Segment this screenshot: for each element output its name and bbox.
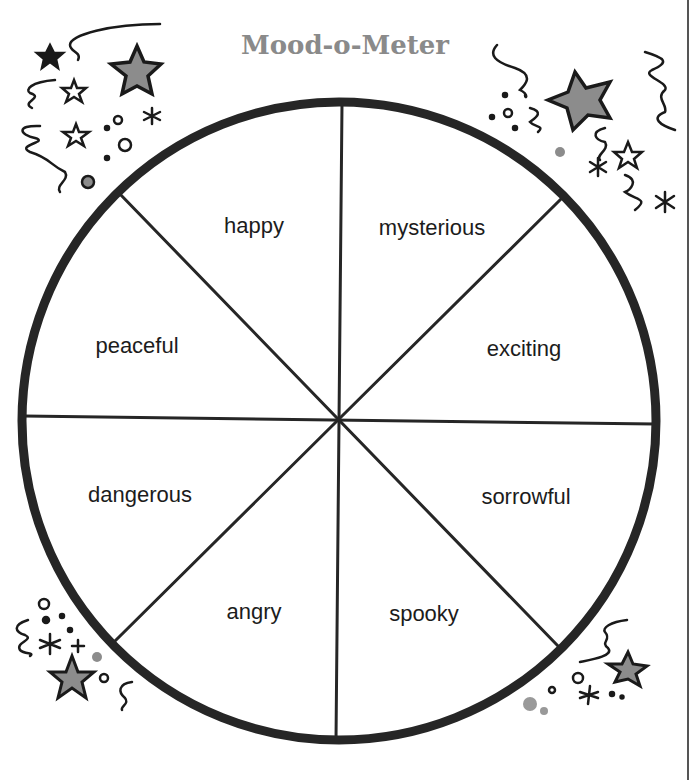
segment-label-mysterious: mysterious [379, 215, 485, 241]
dot-icon [100, 674, 108, 682]
dot-icon [43, 617, 49, 623]
dot-icon [68, 628, 72, 632]
squiggle-icon [23, 126, 67, 192]
dot-icon [555, 147, 565, 157]
dot-icon [39, 599, 49, 609]
squiggle-icon [28, 80, 55, 108]
dot-icon [114, 116, 122, 124]
squiggle-icon [493, 45, 527, 97]
dot-icon [621, 696, 624, 699]
star-icon [111, 46, 161, 94]
decoration-bottom-left [17, 599, 132, 710]
star-icon [548, 72, 610, 130]
dot-icon [82, 176, 94, 188]
star-icon [62, 80, 86, 102]
segment-label-exciting: exciting [487, 336, 562, 362]
squiggle-icon [625, 175, 641, 210]
star-icon [614, 142, 642, 168]
segment-label-angry: angry [226, 599, 281, 625]
asterisk-icon [580, 686, 598, 704]
asterisk-icon [40, 634, 60, 654]
dot-icon [573, 673, 583, 683]
squiggle-icon [120, 682, 132, 710]
segment-label-peaceful: peaceful [95, 333, 178, 359]
squiggle-icon [70, 24, 160, 60]
dot-icon [503, 93, 507, 97]
star-icon [63, 124, 89, 146]
dot-icon [513, 126, 517, 130]
dot-icon [540, 707, 548, 715]
squiggle-icon [596, 128, 607, 160]
segment-label-dangerous: dangerous [88, 482, 192, 508]
dot-icon [119, 139, 131, 151]
dot-icon [523, 697, 537, 711]
segment-label-happy: happy [224, 213, 284, 239]
asterisk-icon [656, 192, 674, 212]
dot-icon [105, 126, 109, 130]
mood-wheel [0, 0, 690, 780]
star-icon [50, 656, 94, 698]
page-edge-line [687, 0, 689, 780]
dot-icon [105, 156, 109, 160]
dot-icon [92, 652, 102, 662]
asterisk-icon [72, 640, 84, 652]
dot-icon [60, 614, 64, 618]
dot-icon [490, 115, 494, 119]
squiggle-icon [645, 52, 675, 130]
asterisk-icon [144, 108, 160, 124]
segment-label-spooky: spooky [389, 601, 459, 627]
dot-icon [549, 687, 555, 693]
dot-icon [504, 109, 512, 117]
star-icon [37, 45, 63, 68]
dot-icon [610, 692, 614, 696]
star-icon [608, 652, 647, 686]
segment-label-sorrowful: sorrowful [481, 484, 570, 510]
decoration-top-right [490, 45, 675, 212]
squiggle-icon [17, 620, 32, 656]
squiggle-icon [530, 108, 540, 132]
asterisk-icon [590, 158, 606, 176]
